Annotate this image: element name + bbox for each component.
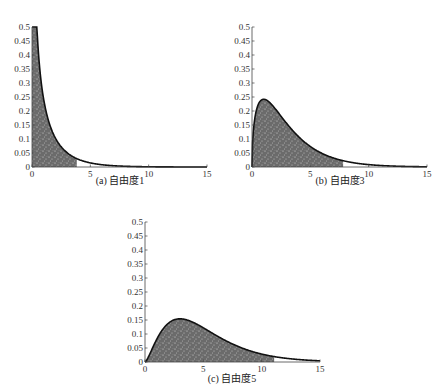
- y-tick-label: 0.15: [127, 315, 143, 325]
- y-tick-label: 0.45: [234, 36, 250, 46]
- y-tick-label: 0.05: [14, 148, 30, 158]
- x-tick-label: 5: [88, 169, 93, 179]
- chart-caption: (b) 自由度3: [315, 174, 364, 187]
- x-tick-label: 0: [30, 169, 35, 179]
- y-tick-label: 0.1: [239, 134, 250, 144]
- x-tick-label: 0: [143, 364, 148, 374]
- chart-caption: (a) 自由度1: [96, 174, 145, 187]
- chart-caption: (c) 自由度5: [208, 372, 257, 385]
- y-tick-label: 0.3: [132, 273, 144, 283]
- y-tick-label: 0.45: [127, 231, 143, 241]
- y-tick-label: 0.45: [14, 36, 30, 46]
- chart-c: 00.050.10.150.20.250.30.350.40.450.50510…: [127, 217, 325, 385]
- y-tick-label: 0.2: [132, 301, 143, 311]
- chart-a: 00.050.10.150.20.250.30.350.40.450.50510…: [14, 22, 212, 187]
- y-tick-label: 0.5: [19, 22, 31, 32]
- y-tick-label: 0.2: [239, 106, 250, 116]
- y-tick-label: 0.05: [127, 343, 143, 353]
- y-tick-label: 0.5: [239, 22, 251, 32]
- x-tick-label: 15: [423, 169, 433, 179]
- y-tick-label: 0.25: [14, 92, 30, 102]
- y-tick-label: 0.4: [132, 245, 144, 255]
- x-tick-label: 10: [257, 364, 267, 374]
- x-tick-label: 10: [144, 169, 154, 179]
- chart-b: 00.050.10.150.20.250.30.350.40.450.50510…: [234, 22, 432, 187]
- y-tick-label: 0.15: [234, 120, 250, 130]
- y-tick-label: 0.2: [19, 106, 30, 116]
- shaded-acceptance-region: [145, 319, 274, 362]
- y-tick-label: 0.15: [14, 120, 30, 130]
- y-tick-label: 0.35: [127, 259, 143, 269]
- figure: 00.050.10.150.20.250.30.350.40.450.50510…: [0, 0, 446, 388]
- y-tick-label: 0.5: [132, 217, 144, 227]
- y-tick-label: 0.35: [234, 64, 250, 74]
- y-tick-label: 0.25: [127, 287, 143, 297]
- y-tick-label: 0.1: [19, 134, 30, 144]
- x-tick-label: 10: [364, 169, 374, 179]
- y-tick-label: 0.25: [234, 92, 250, 102]
- x-tick-label: 0: [250, 169, 255, 179]
- y-tick-label: 0.3: [19, 78, 31, 88]
- x-tick-label: 15: [203, 169, 213, 179]
- y-tick-label: 0.3: [239, 78, 251, 88]
- y-tick-label: 0.35: [14, 64, 30, 74]
- y-tick-label: 0.4: [19, 50, 31, 60]
- y-tick-label: 0.1: [132, 329, 143, 339]
- x-tick-label: 5: [308, 169, 313, 179]
- x-tick-label: 15: [316, 364, 326, 374]
- y-tick-label: 0.4: [239, 50, 251, 60]
- y-tick-label: 0.05: [234, 148, 250, 158]
- x-tick-label: 5: [201, 364, 206, 374]
